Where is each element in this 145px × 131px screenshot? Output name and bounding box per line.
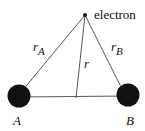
rb-label: rB: [111, 39, 123, 57]
a-label: A: [12, 113, 21, 128]
h2-ion-diagram: electron rA r rB A B: [0, 0, 145, 131]
diagram-svg: electron rA r rB A B: [0, 0, 145, 131]
rb-sub: B: [116, 45, 123, 57]
line-ab: [19, 96, 128, 97]
r-label: r: [84, 56, 90, 71]
electron-dot: [83, 13, 87, 17]
ra-sub: A: [37, 45, 45, 57]
nucleus-b: [117, 84, 140, 107]
b-label: B: [126, 113, 134, 128]
line-ra: [22, 15, 85, 91]
ra-label: rA: [33, 39, 45, 57]
electron-label: electron: [94, 7, 136, 22]
nucleus-a: [8, 85, 31, 108]
